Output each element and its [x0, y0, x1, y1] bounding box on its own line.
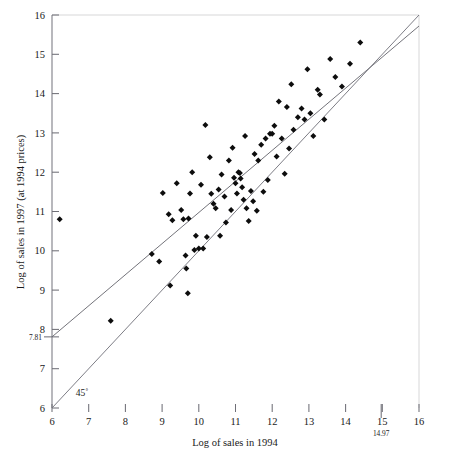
data-point — [250, 198, 256, 204]
data-point — [310, 133, 316, 139]
data-point — [274, 153, 280, 159]
y-tick-label: 14 — [35, 88, 46, 99]
data-point — [288, 81, 294, 87]
x-tick-label: 9 — [159, 416, 164, 427]
x-axis-tick-labels: 678910111213141516 — [49, 416, 424, 427]
data-point — [219, 172, 225, 178]
data-point — [174, 180, 180, 186]
x-tick-label: 15 — [377, 416, 388, 427]
data-point — [271, 123, 277, 129]
y-tick-label: 16 — [35, 10, 46, 21]
y-tick-label: 15 — [35, 49, 46, 60]
data-point — [263, 135, 269, 141]
data-point — [183, 253, 189, 259]
x-axis-title: Log of sales in 1994 — [192, 437, 278, 448]
y-axis-title: Log of sales in 1997 (at 1994 prices) — [15, 134, 27, 289]
data-point — [189, 169, 195, 175]
y-axis-tick-labels: 678910111213141516 — [35, 10, 46, 414]
data-point — [156, 258, 162, 264]
data-point — [198, 182, 204, 188]
data-point — [217, 233, 223, 239]
y-tick-label: 13 — [35, 128, 46, 139]
x-tick-label: 8 — [123, 416, 128, 427]
data-point — [231, 175, 237, 181]
x-tick-label: 6 — [49, 416, 54, 427]
data-point — [207, 154, 213, 160]
data-point — [57, 216, 63, 222]
data-point — [327, 56, 333, 62]
data-point — [265, 177, 271, 183]
y-tick-label: 11 — [35, 206, 45, 217]
special-ticks: 7.8114.97 — [29, 333, 390, 438]
data-point — [208, 191, 214, 197]
data-point — [187, 190, 193, 196]
data-point — [200, 245, 206, 251]
data-point — [221, 194, 227, 200]
y-tick-label: 7 — [40, 363, 45, 374]
forty-five-degree-label: 45˚ — [76, 388, 89, 398]
forty-five-degree-line — [52, 15, 419, 408]
data-point — [193, 233, 199, 239]
plot-canvas: 678910111213141516 678910111213141516 7.… — [0, 0, 464, 467]
data-point — [282, 171, 288, 177]
data-point — [332, 74, 338, 80]
data-point — [169, 217, 175, 223]
data-point — [286, 146, 292, 152]
x-tick-label: 11 — [230, 416, 240, 427]
x-tick-label: 12 — [267, 416, 278, 427]
x-tick-label: 13 — [304, 416, 315, 427]
data-point — [228, 207, 234, 213]
data-point — [244, 205, 250, 211]
y-axis-ticks — [52, 15, 59, 408]
data-point — [226, 157, 232, 163]
scatter-plot-figure: 678910111213141516 678910111213141516 7.… — [0, 0, 464, 467]
y-tick-label: 6 — [40, 403, 45, 414]
data-point — [307, 110, 313, 116]
data-point — [347, 61, 353, 67]
data-point — [246, 218, 252, 224]
data-point — [234, 190, 240, 196]
data-point — [178, 207, 184, 213]
data-point — [230, 145, 236, 151]
data-point — [180, 216, 186, 222]
data-point — [255, 157, 261, 163]
y-tick-label: 12 — [35, 167, 46, 178]
x-tick-label: 10 — [194, 416, 205, 427]
data-point — [149, 251, 155, 257]
data-point — [357, 40, 363, 46]
data-point — [339, 84, 345, 90]
data-point — [252, 151, 258, 157]
data-point — [186, 216, 192, 222]
x-tick-label: 14 — [340, 416, 351, 427]
data-point — [202, 122, 208, 128]
y-special-tick-label: 7.81 — [29, 333, 42, 342]
data-point — [304, 66, 310, 72]
data-point — [233, 180, 239, 186]
data-point — [254, 208, 260, 214]
data-point — [242, 133, 248, 139]
data-point — [166, 211, 172, 217]
data-point — [239, 184, 245, 190]
data-point — [321, 117, 327, 123]
chart-annotations: 45˚ — [76, 388, 89, 398]
x-special-tick-label: 14.97 — [373, 429, 390, 438]
data-point — [185, 290, 191, 296]
data-point — [160, 190, 166, 196]
y-tick-label: 10 — [35, 245, 46, 256]
data-point — [276, 98, 282, 104]
data-point — [238, 175, 244, 181]
data-point — [299, 106, 305, 112]
x-tick-label: 7 — [86, 416, 91, 427]
data-point — [108, 318, 114, 324]
x-tick-label: 16 — [414, 416, 425, 427]
data-point — [204, 234, 210, 240]
data-point — [260, 189, 266, 195]
data-point — [258, 142, 264, 148]
data-points — [57, 40, 364, 324]
data-point — [295, 114, 301, 120]
data-point — [216, 186, 222, 192]
trend-lines — [52, 15, 419, 408]
data-point — [284, 104, 290, 110]
y-tick-label: 9 — [40, 285, 45, 296]
data-point — [290, 127, 296, 133]
